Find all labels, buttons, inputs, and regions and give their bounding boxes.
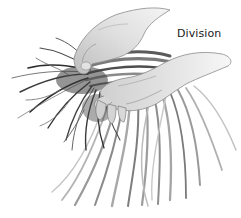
figure-caption: Division xyxy=(177,27,221,40)
upper-hand xyxy=(74,8,170,74)
